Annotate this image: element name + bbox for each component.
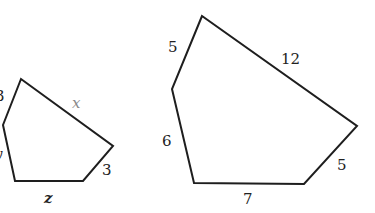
large-top-right-side-label: 12 (281, 50, 300, 68)
large-top-left-side-label: 5 (168, 38, 178, 56)
large-bottom-side-label: 7 (243, 190, 253, 208)
similar-pentagons-figure: 3 y x 3 z 5 12 6 5 7 (0, 0, 375, 213)
small-top-right-side-label: x (72, 94, 81, 112)
small-bottom-side-label: z (43, 189, 53, 207)
large-pentagon-outline (172, 16, 357, 184)
large-bottom-right-side-label: 5 (337, 156, 347, 174)
small-left-lower-side-label: y (0, 145, 3, 163)
small-pentagon: 3 y x 3 z (0, 79, 113, 207)
small-bottom-right-side-label: 3 (102, 161, 112, 179)
large-pentagon: 5 12 6 5 7 (162, 16, 357, 208)
small-pentagon-outline (3, 79, 113, 181)
large-left-lower-side-label: 6 (162, 132, 172, 150)
small-top-left-side-label: 3 (0, 87, 5, 105)
